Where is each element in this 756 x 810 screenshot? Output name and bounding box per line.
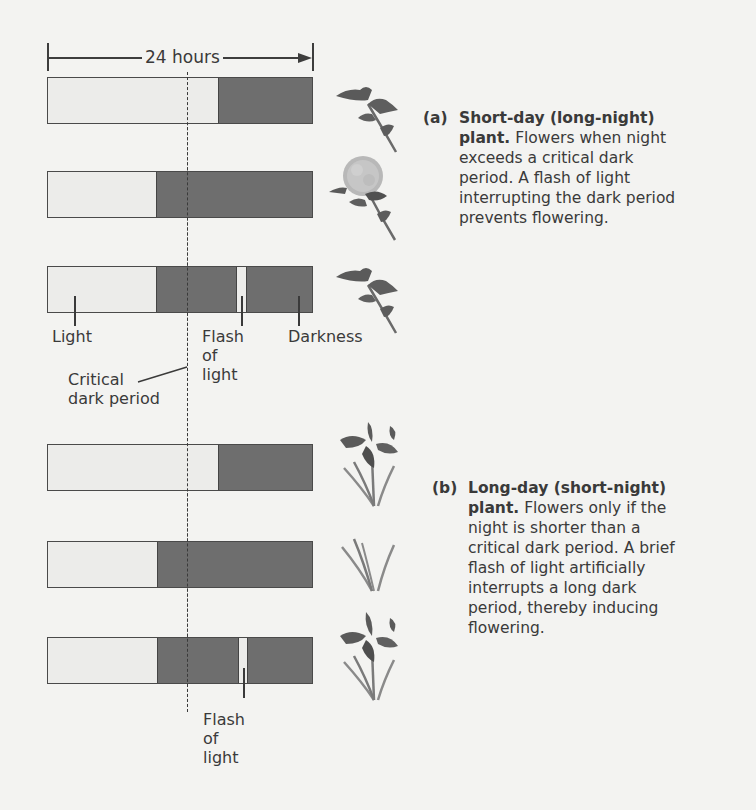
arrow-right-icon [298,53,312,63]
flash-of-light-label-top: Flash of light [202,327,244,384]
caption-line: Short-day (long-night) [459,108,753,128]
caption-line: period. A flash of light [459,168,753,188]
iris-flower-icon [332,606,407,704]
iris-flower-icon [332,418,407,510]
caption-line: night is shorter than a [468,518,752,538]
caption-line: critical dark period. A brief [468,538,752,558]
caption-line: Long-day (short-night) [468,478,752,498]
caption-line: prevents flowering. [459,208,753,228]
span-right-tick [312,43,314,71]
dark-period [157,638,312,683]
flash-pointer [241,296,243,326]
light-pointer [74,296,76,326]
photoperiod-bar-b1 [47,444,313,491]
light-label: Light [52,327,92,346]
caption-line: interrupts a long dark [468,578,752,598]
photoperiod-bar-a2 [47,171,313,218]
chrysanthemum-leaves-icon [328,74,403,154]
critical-dark-period-line-overlay [187,72,188,712]
critical-label-leader-line [136,363,190,387]
caption-short-day-plant: (a) Short-day (long-night) plant. Flower… [423,108,753,228]
flash-of-light-label-bottom: Flash of light [203,710,245,767]
flash-pointer-bottom [243,668,245,698]
caption-long-day-plant: (b) Long-day (short-night) plant. Flower… [432,478,752,638]
photoperiod-bar-a1 [47,77,313,124]
dark-period [218,78,312,123]
chrysanthemum-leaves-icon [328,255,403,335]
photoperiod-bar-a3 [47,266,313,313]
dark-period [157,542,312,587]
caption-line: interrupting the dark period [459,188,753,208]
span-label: 24 hours [142,47,223,67]
dark-period [156,172,312,217]
caption-line: flowering. [468,618,752,638]
chrysanthemum-flower-icon [325,150,405,242]
caption-line: plant. Flowers only if the [468,498,752,518]
dark-period [156,267,312,312]
iris-leaves-icon [332,535,407,593]
caption-letter-a: (a) [423,108,448,128]
caption-letter-b: (b) [432,478,457,498]
photoperiod-bar-b2 [47,541,313,588]
caption-line: exceeds a critical dark [459,148,753,168]
photoperiod-bar-b3 [47,637,313,684]
caption-line: period, thereby inducing [468,598,752,618]
dark-period [218,445,312,490]
darkness-pointer [298,296,300,326]
caption-line: flash of light artificially [468,558,752,578]
caption-line: plant. Flowers when night [459,128,753,148]
